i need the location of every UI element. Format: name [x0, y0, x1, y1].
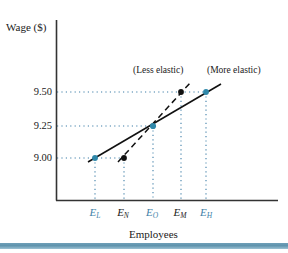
x-tick-sub-em: M — [180, 211, 186, 220]
bottom-divider-rule — [0, 243, 288, 249]
more-elastic-annotation: (More elastic) — [207, 66, 261, 76]
y-tick-label-900: 9.00 — [18, 153, 52, 164]
vertical-guide-lines — [95, 92, 206, 200]
point-en-900 — [121, 155, 127, 161]
point-eo-925 — [150, 123, 156, 129]
point-el-900 — [92, 155, 98, 161]
y-axis-title: Wage ($) — [6, 22, 46, 33]
x-tick-label-el: EL — [82, 207, 108, 220]
x-tick-label-eo: EO — [139, 207, 165, 220]
x-tick-base-en: E — [117, 206, 124, 218]
x-axis-title: Employees — [129, 229, 178, 240]
y-tick-label-950: 9.50 — [18, 87, 52, 98]
x-tick-label-eh: EH — [193, 207, 219, 220]
horizontal-guide-lines — [57, 92, 206, 158]
point-eh-950 — [203, 89, 209, 95]
x-tick-sub-eh: H — [207, 211, 212, 220]
x-tick-label-en: EN — [110, 207, 136, 220]
less-elastic-annotation: (Less elastic) — [133, 66, 183, 76]
x-tick-sub-el: L — [96, 211, 100, 220]
x-tick-base-eh: E — [200, 206, 207, 218]
x-tick-sub-en: N — [124, 211, 129, 220]
point-em-950 — [178, 89, 184, 95]
x-tick-base-eo: E — [146, 206, 153, 218]
more-elastic-curve — [88, 84, 221, 162]
chart-figure: Wage ($) 9.50 9.25 9.00 EL EN EO EM EH E… — [0, 0, 288, 253]
y-tick-label-925: 9.25 — [18, 121, 52, 132]
x-tick-sub-eo: O — [153, 211, 158, 220]
x-tick-label-em: EM — [167, 207, 193, 220]
